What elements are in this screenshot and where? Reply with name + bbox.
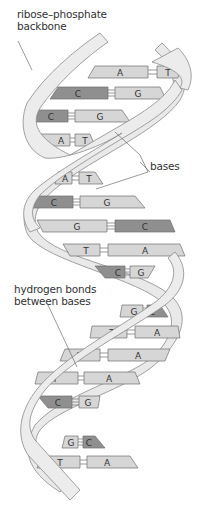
svg-text:G: G (138, 268, 145, 278)
svg-text:G: G (97, 112, 104, 122)
svg-text:C: C (51, 198, 57, 208)
svg-text:G: G (85, 398, 92, 408)
svg-text:T: T (85, 174, 92, 184)
hydrogen-bonds-label: hydrogen bonds between bases (14, 283, 96, 307)
svg-text:T: T (82, 246, 89, 256)
svg-text:A: A (135, 351, 142, 361)
svg-text:T: T (81, 136, 88, 146)
svg-text:C: C (142, 222, 148, 232)
backbone-label-line2: backbone (17, 20, 107, 32)
dna-helix-diagram: A T C G C G A T A T C G G C T A C G G C … (0, 0, 202, 523)
svg-text:A: A (58, 136, 65, 146)
svg-text:A: A (117, 68, 124, 78)
backbone-label-line1: ribose–phosphate (17, 8, 107, 20)
svg-text:C: C (48, 112, 54, 122)
svg-text:C: C (55, 398, 61, 408)
svg-text:A: A (106, 374, 113, 384)
svg-text:G: G (104, 198, 111, 208)
bases-label: bases (150, 160, 180, 172)
svg-text:C: C (115, 268, 121, 278)
svg-text:G: G (68, 438, 75, 448)
svg-text:G: G (74, 222, 81, 232)
svg-text:A: A (142, 246, 149, 256)
svg-text:C: C (86, 438, 92, 448)
svg-text:A: A (154, 328, 161, 338)
hbonds-label-line2: between bases (14, 295, 96, 307)
hbonds-label-line1: hydrogen bonds (14, 283, 96, 295)
svg-text:C: C (75, 89, 81, 99)
svg-text:A: A (104, 458, 111, 468)
svg-text:T: T (164, 68, 171, 78)
svg-text:G: G (135, 89, 142, 99)
backbone-label: ribose–phosphate backbone (17, 8, 107, 32)
